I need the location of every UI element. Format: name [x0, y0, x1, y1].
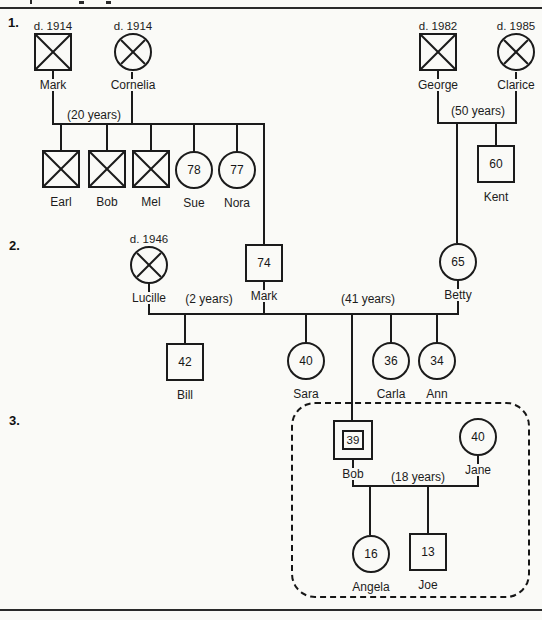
person-name: Carla — [374, 388, 409, 400]
clipped-text-fragment — [30, 0, 32, 4]
person-kent: 60 Kent — [454, 145, 538, 203]
sibling-drop-line — [150, 123, 152, 150]
person-name: Sara — [290, 388, 321, 400]
person-name: Nora — [221, 197, 253, 209]
sibling-drop-line — [305, 313, 307, 342]
person-bill: 42 Bill — [143, 343, 227, 401]
clipped-text-fragment — [106, 1, 111, 4]
age-value: 13 — [421, 545, 434, 559]
top-rule — [0, 7, 542, 9]
male-icon: 13 — [409, 533, 447, 571]
index-person-male-icon: 39 — [333, 420, 373, 460]
death-year-label: d. 1985 — [495, 20, 537, 32]
female-icon: 36 — [372, 342, 410, 380]
person-name: Ann — [423, 388, 450, 400]
age-value: 42 — [178, 355, 191, 369]
death-year-label: d. 1914 — [112, 20, 154, 32]
age-value: 39 — [342, 430, 364, 450]
sibling-drop-line — [184, 313, 186, 343]
person-george: d. 1982 George — [396, 20, 480, 91]
sibling-drop-line — [495, 122, 497, 145]
person-name: George — [415, 79, 461, 91]
sibling-drop-line — [193, 123, 195, 152]
deceased-female-icon — [114, 33, 152, 71]
sibling-drop-line — [106, 123, 108, 150]
marriage-line — [148, 313, 459, 315]
person-name: Lucille — [129, 292, 169, 304]
person-name: Earl — [47, 196, 74, 208]
age-value: 36 — [384, 354, 397, 368]
female-icon: 16 — [352, 535, 390, 573]
person-name: Mark — [37, 79, 70, 91]
person-lucille: d. 1946 Lucille — [107, 233, 191, 304]
person-name: Angela — [349, 581, 392, 593]
female-icon: 78 — [175, 151, 213, 189]
marriage-duration: (50 years) — [449, 104, 507, 118]
marriage-duration: (20 years) — [65, 108, 123, 122]
deceased-female-icon — [130, 246, 168, 284]
person-name: Jane — [462, 464, 494, 476]
sibling-drop-line — [60, 123, 62, 150]
age-value: 16 — [364, 547, 377, 561]
male-icon: 42 — [166, 343, 204, 381]
person-name: Cornelia — [108, 79, 159, 91]
person-mark-gen1: d. 1914 Mark — [11, 20, 95, 91]
generation-2-label: 2. — [9, 238, 20, 253]
male-icon: 74 — [245, 244, 283, 282]
person-name: Bob — [93, 196, 120, 208]
genogram-figure: 1. 2. 3. (20 years) (50 years) (2 years)… — [0, 0, 542, 620]
age-value: 40 — [299, 354, 312, 368]
person-clarice: d. 1985 Clarice — [474, 20, 542, 91]
age-value: 34 — [430, 354, 443, 368]
age-value: 65 — [451, 255, 464, 269]
clipped-text-fragment — [79, 1, 84, 4]
death-year-label: d. 1982 — [417, 20, 459, 32]
deceased-male-icon — [132, 150, 170, 188]
person-name: Sue — [180, 197, 207, 209]
deceased-male-icon — [88, 150, 126, 188]
deceased-male-icon — [42, 150, 80, 188]
male-icon: 60 — [477, 145, 515, 183]
marriage-duration: (2 years) — [183, 292, 234, 306]
female-icon: 65 — [439, 243, 477, 281]
marriage-line — [52, 123, 265, 125]
age-value: 77 — [230, 163, 243, 177]
marriage-duration: (41 years) — [339, 292, 397, 306]
person-name: Bill — [174, 389, 196, 401]
marriage-duration: (18 years) — [389, 470, 447, 484]
age-value: 78 — [187, 163, 200, 177]
female-icon: 77 — [218, 151, 256, 189]
death-year-label: d. 1946 — [128, 233, 170, 245]
marriage-line — [437, 122, 517, 124]
female-icon: 40 — [287, 342, 325, 380]
sibling-drop-line — [436, 313, 438, 342]
female-icon: 34 — [418, 342, 456, 380]
person-name: Mark — [248, 290, 281, 302]
person-name: Bob — [339, 468, 366, 480]
sibling-drop-line — [236, 123, 238, 152]
deceased-female-icon — [497, 33, 535, 71]
person-betty: 65 Betty — [416, 243, 500, 301]
bottom-rule — [0, 609, 542, 611]
deceased-male-icon — [419, 33, 457, 71]
sibling-drop-line — [390, 313, 392, 342]
person-cornelia: d. 1914 Cornelia — [91, 20, 175, 91]
female-icon: 40 — [459, 418, 497, 456]
generation-3-label: 3. — [9, 413, 20, 428]
person-sara: 40 Sara — [264, 342, 348, 400]
age-value: 74 — [257, 256, 270, 270]
age-value: 40 — [471, 430, 484, 444]
person-name: Betty — [441, 289, 474, 301]
person-name: Joe — [415, 579, 440, 591]
death-year-label: d. 1914 — [32, 20, 74, 32]
age-value: 60 — [489, 157, 502, 171]
person-name: Clarice — [494, 79, 537, 91]
person-name: Kent — [481, 191, 512, 203]
person-name: Mel — [138, 196, 163, 208]
deceased-male-icon — [34, 33, 72, 71]
